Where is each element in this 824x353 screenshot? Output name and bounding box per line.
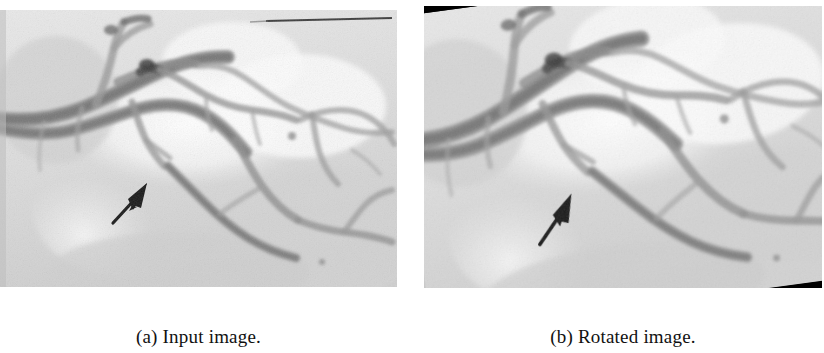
figure-root: (a) Input image. (b) Rotated image. xyxy=(0,0,824,353)
angiogram-panel-rotated xyxy=(424,6,822,288)
angiogram-image-input xyxy=(0,10,397,287)
angiogram-panel-input xyxy=(0,10,397,287)
angiogram-svg-input xyxy=(0,10,397,287)
angiogram-svg-rotated xyxy=(424,6,822,288)
rotated-image-content xyxy=(424,6,822,288)
caption-rotated-image: (b) Rotated image. xyxy=(424,326,822,348)
caption-input-image: (a) Input image. xyxy=(0,326,397,348)
angiogram-image-rotated xyxy=(424,6,822,288)
